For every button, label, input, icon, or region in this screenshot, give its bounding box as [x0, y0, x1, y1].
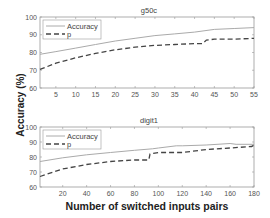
panel-digit1: digit16070809010020406080100120140160180…	[25, 116, 260, 197]
x-tick-label: 50	[230, 91, 238, 98]
x-tick-label: 160	[224, 190, 236, 197]
x-tick-label: 25	[131, 91, 139, 98]
y-tick-label: 100	[25, 124, 37, 131]
y-tick-label: 90	[29, 31, 37, 38]
x-tick-label: 140	[200, 190, 212, 197]
x-tick-label: 30	[151, 91, 159, 98]
y-tick-label: 70	[29, 169, 37, 176]
legend-label: Accuracy	[67, 132, 98, 141]
y-tick-label: 100	[25, 14, 37, 21]
x-tick-label: 60	[107, 190, 115, 197]
legend: Accuracyp	[43, 20, 101, 39]
panel-title: digit1	[140, 116, 158, 125]
x-tick-label: 120	[176, 190, 188, 197]
x-tick-label: 100	[153, 190, 165, 197]
legend: Accuracyp	[43, 130, 101, 149]
x-tick-label: 80	[131, 190, 139, 197]
x-tick-label: 20	[59, 190, 67, 197]
y-tick-label: 80	[29, 49, 37, 56]
y-tick-label: 60	[29, 184, 37, 191]
y-tick-label: 90	[29, 139, 37, 146]
y-tick-label: 60	[29, 85, 37, 92]
chart-figure: Accuracy (%) Number of switched inputs p…	[0, 0, 270, 218]
x-tick-label: 180	[248, 190, 260, 197]
y-tick-label: 80	[29, 154, 37, 161]
legend-label: p	[67, 30, 71, 39]
x-tick-label: 10	[72, 91, 80, 98]
panel-g50c: g50c60708090100510152025303540455055Accu…	[25, 6, 258, 98]
legend-label: Accuracy	[67, 22, 98, 31]
series-line-p	[40, 38, 254, 69]
y-tick-label: 70	[29, 67, 37, 74]
x-tick-label: 20	[111, 91, 119, 98]
legend-label: p	[67, 140, 71, 149]
panel-title: g50c	[141, 6, 158, 15]
x-tick-label: 45	[210, 91, 218, 98]
x-tick-label: 5	[54, 91, 58, 98]
x-tick-label: 40	[83, 190, 91, 197]
x-axis-label: Number of switched inputs pairs	[66, 200, 229, 212]
x-tick-label: 35	[171, 91, 179, 98]
x-tick-label: 55	[250, 91, 258, 98]
x-tick-label: 15	[92, 91, 100, 98]
x-tick-label: 40	[191, 91, 199, 98]
